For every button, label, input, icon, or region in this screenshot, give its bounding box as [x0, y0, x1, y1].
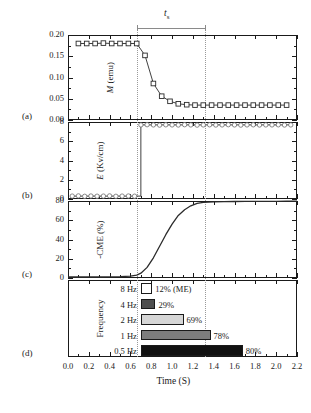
- x-tick-label: 1.8: [244, 361, 266, 371]
- frequency-bar: [141, 283, 152, 294]
- frequency-bar: [141, 299, 156, 310]
- bar-category-label: 2 Hz: [97, 315, 137, 325]
- x-tick-label: 2.0: [265, 361, 287, 371]
- x-axis-title: Time (S): [157, 376, 191, 386]
- x-tick-label: 0.8: [140, 361, 162, 371]
- bar-category-label: 0.5 Hz: [97, 346, 137, 356]
- bar-value-label: 69%: [187, 315, 203, 325]
- bar-category-label: 4 Hz: [97, 300, 137, 310]
- x-tick-label: 1.4: [203, 361, 225, 371]
- x-tick-label: 0.2: [78, 361, 100, 371]
- figure-panel-stack: 0.000.050.100.150.20M (emu)(a)02468E (Kv…: [0, 0, 311, 413]
- bar-value-label: 78%: [214, 331, 230, 341]
- x-tick-label: 1.6: [224, 361, 246, 371]
- x-tick-label: 0.4: [99, 361, 121, 371]
- bar-category-label: 1 Hz: [97, 331, 137, 341]
- bar-value-label: 29%: [158, 300, 174, 310]
- x-tick-label: 1.2: [182, 361, 204, 371]
- x-tick-label: 1.0: [161, 361, 183, 371]
- x-tick-label: 0.6: [119, 361, 141, 371]
- bar-category-label: 8 Hz: [97, 284, 137, 294]
- frequency-bar: [141, 330, 211, 341]
- frequency-bar: [141, 345, 243, 356]
- x-tick-label: 2.2: [286, 361, 308, 371]
- x-tick-label: 0.0: [57, 361, 79, 371]
- bar-value-label: 80%: [246, 346, 262, 356]
- frequency-bar: [141, 314, 184, 325]
- bar-value-label: 12% (ME): [155, 284, 191, 294]
